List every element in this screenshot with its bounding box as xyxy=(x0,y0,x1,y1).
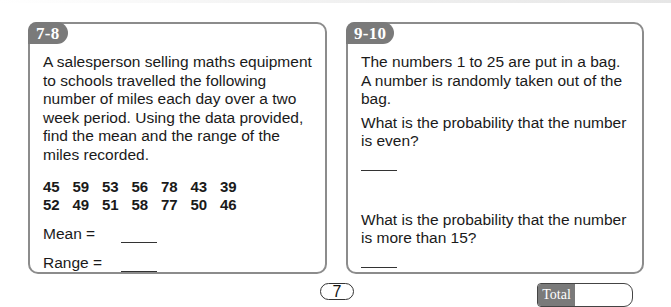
data-cell: 78 xyxy=(161,178,191,196)
question-body: The numbers 1 to 25 are put in a bag. A … xyxy=(361,53,632,268)
even-probability-question: What is the probability that the number … xyxy=(361,114,632,151)
data-cell: 59 xyxy=(73,178,103,196)
data-cell: 46 xyxy=(220,196,250,214)
mean-label: Mean = xyxy=(43,225,121,244)
mean-answer-row: Mean = xyxy=(43,224,315,243)
data-row: 52 49 51 58 77 50 46 xyxy=(43,196,315,214)
question-card-7-8: 7-8 A salesperson selling maths equipmen… xyxy=(28,22,327,274)
mean-answer-blank[interactable] xyxy=(121,228,157,243)
question-text: A salesperson selling maths equipment to… xyxy=(43,53,315,164)
total-label: Total xyxy=(538,284,575,306)
data-row: 45 59 53 56 78 43 39 xyxy=(43,178,315,196)
data-cell: 58 xyxy=(132,196,162,214)
data-cell: 51 xyxy=(102,196,132,214)
range-answer-blank[interactable] xyxy=(121,257,157,272)
total-score-box[interactable]: Total xyxy=(537,283,633,307)
range-label: Range = xyxy=(43,254,121,273)
question-card-9-10: 9-10 The numbers 1 to 25 are put in a ba… xyxy=(346,22,644,274)
question-number-badge: 9-10 xyxy=(346,22,394,44)
data-cell: 43 xyxy=(191,178,221,196)
question-body: A salesperson selling maths equipment to… xyxy=(43,53,315,272)
data-cell: 52 xyxy=(43,196,73,214)
range-answer-row: Range = xyxy=(43,253,315,272)
miles-data-table: 45 59 53 56 78 43 39 52 49 51 58 77 50 4… xyxy=(43,178,315,214)
even-probability-answer-blank[interactable] xyxy=(361,169,397,171)
intro-line-2: A number is randomly taken out of the ba… xyxy=(361,72,632,109)
intro-line-1: The numbers 1 to 25 are put in a bag. xyxy=(361,53,632,72)
top-rule xyxy=(0,0,671,3)
over-15-probability-answer-blank[interactable] xyxy=(361,266,397,268)
data-cell: 39 xyxy=(220,178,250,196)
data-cell: 56 xyxy=(132,178,162,196)
data-cell: 49 xyxy=(73,196,103,214)
question-number-badge: 7-8 xyxy=(28,22,68,44)
data-cell: 77 xyxy=(161,196,191,214)
page-number: 7 xyxy=(320,283,354,300)
data-cell: 50 xyxy=(191,196,221,214)
data-cell: 45 xyxy=(43,178,73,196)
over-15-probability-question: What is the probability that the number … xyxy=(361,211,632,248)
data-cell: 53 xyxy=(102,178,132,196)
